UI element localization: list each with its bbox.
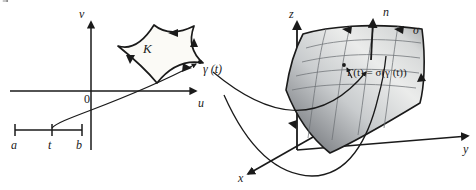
Gamma-of-t-label: Γ(t) = σ(γ (t)) [347, 67, 407, 78]
gamma-map-arrow [52, 64, 196, 128]
figure-canvas [0, 0, 476, 190]
region-K [118, 25, 203, 83]
z-axis-label: z [289, 8, 294, 20]
normal-vector-label: n [383, 6, 389, 18]
origin-label: 0 [84, 93, 90, 105]
gamma-point-marker [198, 60, 202, 64]
surface-sigma [286, 25, 426, 153]
normal-vector-arrow-accent [0, 0, 11, 2]
parameter-interval [15, 124, 82, 136]
math-figure: v u 0 K γ (t) a t b z x y n σ Γ(t) = σ(γ… [0, 0, 476, 190]
interval-b-label: b [76, 139, 82, 151]
region-K-boundary [118, 25, 203, 83]
v-axis-label: v [79, 8, 84, 20]
interval-a-label: a [11, 139, 17, 151]
surface-patch [286, 26, 424, 153]
x-axis-label: x [238, 172, 243, 184]
u-axis-label: u [198, 97, 204, 109]
surface-arrow-left [288, 120, 297, 129]
y-axis-label: y [463, 143, 468, 155]
interval-t-label: t [48, 139, 51, 151]
surface-sigma-label: σ [413, 24, 419, 36]
region-K-label: K [143, 42, 152, 55]
Gamma-point-marker [342, 63, 346, 67]
gamma-of-t-label: γ (t) [203, 63, 222, 75]
